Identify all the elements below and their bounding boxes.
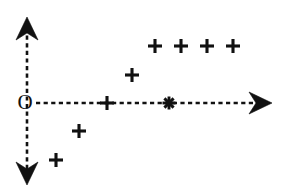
scatter-plot-svg: O	[0, 0, 281, 189]
figure-root: O	[0, 0, 281, 189]
data-point-marker	[226, 39, 240, 53]
data-point-marker	[125, 68, 139, 82]
data-point-marker	[72, 124, 86, 138]
data-point-marker	[200, 39, 214, 53]
data-point-marker	[49, 153, 63, 167]
data-point-star-marker	[163, 97, 176, 110]
data-point-marker	[174, 39, 188, 53]
origin-label: O	[17, 90, 32, 114]
data-point-marker	[148, 39, 162, 53]
data-point-marker	[100, 96, 114, 110]
